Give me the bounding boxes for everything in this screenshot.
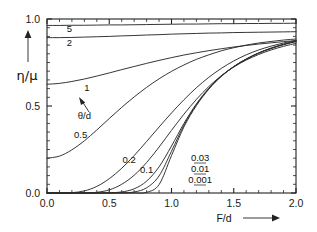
curve-label-0-001: 0.001 — [188, 174, 212, 185]
axis-ticks — [47, 19, 296, 193]
up-arrow-icon — [25, 30, 32, 38]
curve-label-0-03: 0.03 — [191, 152, 210, 163]
x-tick-label: 0.5 — [102, 197, 117, 209]
curve-annotations: θ/d5210.50.20.10.030.010.001 — [67, 23, 212, 185]
right-arrow-icon — [272, 215, 280, 222]
y-axis-title-group: η/μ — [17, 30, 38, 83]
curve-label-5: 5 — [67, 23, 72, 34]
x-axis-title: F/d — [216, 212, 231, 224]
line-chart-svg: 0.00.51.01.52.0 0.00.51.0 F/d η/μ θ/d521… — [0, 0, 317, 232]
curve-label-1: 1 — [84, 82, 89, 93]
theta-d-pointer-arrow-icon — [79, 97, 85, 105]
x-tick-label: 2.0 — [289, 197, 304, 209]
chart-figure: 0.00.51.01.52.0 0.00.51.0 F/d η/μ θ/d521… — [0, 0, 317, 232]
curve-label-0-01: 0.01 — [191, 163, 210, 174]
curve-label-0-2: 0.2 — [123, 154, 136, 165]
x-tick-label: 0.0 — [40, 197, 55, 209]
y-tick-label: 0.0 — [25, 187, 40, 199]
curves-group — [47, 23, 296, 193]
curve-label-0-1: 0.1 — [140, 164, 153, 175]
curve-2 — [47, 32, 296, 38]
curve-label-2: 2 — [67, 37, 72, 48]
y-tick-label: 0.5 — [25, 100, 40, 112]
curve-0-5 — [47, 39, 296, 158]
plot-frame — [47, 19, 296, 193]
x-tick-label: 1.5 — [226, 197, 241, 209]
x-axis-title-group: F/d — [216, 212, 280, 224]
y-axis-title: η/μ — [17, 68, 38, 83]
curve-label-0-5: 0.5 — [74, 129, 87, 140]
x-tick-labels: 0.00.51.01.52.0 — [40, 197, 304, 209]
y-tick-label: 1.0 — [25, 13, 40, 25]
plot-area-border — [47, 19, 296, 193]
x-tick-label: 1.0 — [164, 197, 179, 209]
curve-1 — [47, 41, 296, 85]
